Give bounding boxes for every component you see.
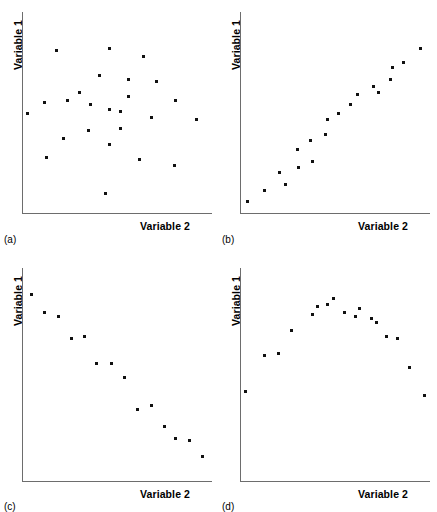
data-point [244,390,247,393]
data-point [155,80,158,83]
data-point [343,311,346,314]
data-point [326,303,329,306]
data-point [150,116,153,119]
panel-a: Variable 1 Variable 2 (a) [0,0,218,256]
data-point [402,61,405,64]
data-point [150,404,153,407]
data-point [370,317,373,320]
data-point [188,439,191,442]
data-point [389,78,392,81]
panel-d-plot-area [240,278,430,481]
panel-d-x-axis-label: Variable 2 [358,488,408,500]
panel-c-x-axis-line [22,481,212,482]
data-point [110,362,113,365]
panel-c-tag: (c) [4,501,16,512]
data-point [408,366,411,369]
data-point [87,129,90,132]
data-point [332,297,335,300]
panel-a-tag: (a) [4,234,16,245]
data-point [201,455,204,458]
data-point [138,158,141,161]
data-point [297,166,300,169]
data-point [337,112,340,115]
data-point [43,101,46,104]
data-point [119,127,122,130]
data-point [89,103,92,106]
data-point [356,93,359,96]
data-point [311,160,314,163]
data-point [309,139,312,142]
panel-c: Variable 1 Variable 2 (c) [0,256,218,512]
data-point [108,143,111,146]
data-point [284,183,287,186]
panel-c-plot-area [22,278,212,481]
panel-b-x-axis-line [240,213,430,214]
data-point [142,55,145,58]
data-point [26,112,29,115]
data-point [83,335,86,338]
data-point [70,337,73,340]
data-point [163,425,166,428]
data-point [349,103,352,106]
data-point [78,91,81,94]
data-point [57,315,60,318]
data-point [423,394,426,397]
data-point [311,313,314,316]
data-point [98,74,101,77]
data-point [375,321,378,324]
data-point [108,47,111,50]
data-point [173,164,176,167]
data-point [45,156,48,159]
data-point [296,148,299,151]
data-point [354,315,357,318]
data-point [385,335,388,338]
data-point [263,354,266,357]
panel-b-x-axis-label: Variable 2 [358,220,408,232]
data-point [263,189,266,192]
data-point [55,49,58,52]
panel-c-x-axis-label: Variable 2 [140,488,190,500]
data-point [127,78,130,81]
data-point [290,329,293,332]
data-point [372,85,375,88]
panel-d: Variable 1 Variable 2 (d) [218,256,437,512]
data-point [43,311,46,314]
panel-b-tag: (b) [222,234,234,245]
data-point [136,408,139,411]
data-point [95,362,98,365]
data-point [277,352,280,355]
data-point [419,47,422,50]
panel-a-x-axis-label: Variable 2 [140,220,190,232]
data-point [316,305,319,308]
data-point [324,133,327,136]
data-point [62,137,65,140]
panel-b-plot-area [240,22,430,213]
panel-d-tag: (d) [222,501,234,512]
data-point [358,307,361,310]
data-point [104,192,107,195]
data-point [66,99,69,102]
data-point [246,200,249,203]
panel-b: Variable 1 Variable 2 (b) [218,0,437,256]
data-point [123,376,126,379]
data-point [127,95,130,98]
data-point [30,293,33,296]
data-point [119,110,122,113]
data-point [396,337,399,340]
data-point [326,118,329,121]
data-point [195,118,198,121]
scatterplot-figure: Variable 1 Variable 2 (a) Variable 1 Var… [0,0,437,512]
data-point [108,108,111,111]
data-point [174,99,177,102]
panel-d-x-axis-line [240,481,430,482]
data-point [377,91,380,94]
panel-a-x-axis-line [22,213,212,214]
data-point [391,66,394,69]
data-point [174,437,177,440]
panel-a-plot-area [22,22,212,213]
data-point [278,171,281,174]
